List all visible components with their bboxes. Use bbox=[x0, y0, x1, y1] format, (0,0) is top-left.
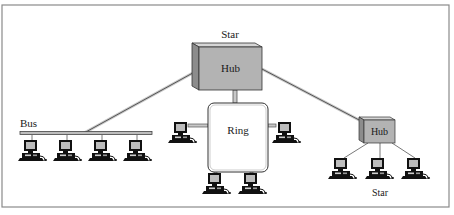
main-star-label: Star bbox=[221, 28, 239, 40]
star-topology-label: Star bbox=[372, 187, 389, 198]
network-topology-diagram: Hub Star Ring Bus Hub Star bbox=[0, 0, 454, 215]
ring-label: Ring bbox=[227, 124, 249, 136]
main-hub: Hub bbox=[192, 43, 262, 90]
main-hub-label: Hub bbox=[221, 62, 240, 74]
bus-label: Bus bbox=[20, 117, 37, 129]
star-hub-label: Hub bbox=[371, 126, 388, 137]
